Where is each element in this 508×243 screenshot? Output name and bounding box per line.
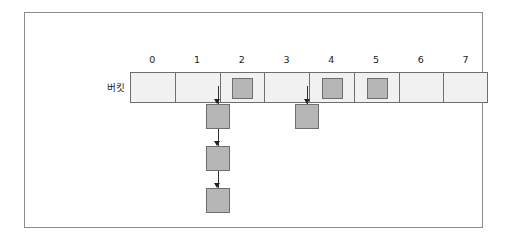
- node-2-1[interactable]: [206, 104, 230, 129]
- bucket-cell-1[interactable]: [175, 72, 220, 103]
- bucket-cell-3[interactable]: [264, 72, 309, 103]
- bucket-index-4: 4: [309, 51, 354, 69]
- bucket-cell-5[interactable]: [354, 72, 399, 103]
- bucket-slot-square-5[interactable]: [367, 78, 388, 99]
- bucket-cell-7[interactable]: [443, 72, 488, 103]
- bucket-hash-diagram: 버킷 01234567: [0, 0, 508, 243]
- bucket-slot-square-2[interactable]: [232, 78, 253, 99]
- bucket-row-label: 버킷: [77, 79, 125, 97]
- bucket-index-0: 0: [130, 51, 175, 69]
- bucket-index-6: 6: [399, 51, 444, 69]
- bucket-index-2: 2: [220, 51, 265, 69]
- node-2-2[interactable]: [206, 146, 230, 171]
- bucket-index-5: 5: [354, 51, 399, 69]
- bucket-cell-0[interactable]: [130, 72, 175, 103]
- bucket-index-7: 7: [443, 51, 488, 69]
- bucket-index-1: 1: [175, 51, 220, 69]
- bucket-index-3: 3: [264, 51, 309, 69]
- node-4-1[interactable]: [295, 104, 319, 129]
- node-2-3[interactable]: [206, 188, 230, 213]
- bucket-cell-4[interactable]: [309, 72, 354, 103]
- bucket-cell-2[interactable]: [220, 72, 265, 103]
- bucket-cell-6[interactable]: [399, 72, 444, 103]
- bucket-slot-square-4[interactable]: [322, 78, 343, 99]
- diagram-frame: 버킷 01234567: [24, 12, 483, 228]
- bucket-index-row: 01234567: [130, 51, 488, 69]
